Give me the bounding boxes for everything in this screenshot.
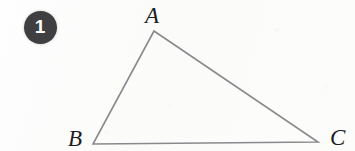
triangle-outline [93, 31, 318, 144]
triangle-figure [0, 0, 355, 151]
vertex-label-b: B [68, 127, 82, 150]
diagram-canvas: 1 A B C [0, 0, 355, 151]
vertex-label-a: A [145, 4, 159, 27]
vertex-label-c: C [330, 126, 345, 149]
